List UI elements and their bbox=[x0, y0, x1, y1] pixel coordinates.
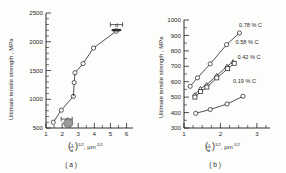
svg-text:(1 )1/2, µm-1/2: (1 )1/2, µm-1/2 bbox=[68, 141, 104, 151]
chart-b-point bbox=[208, 62, 212, 66]
chart-b-x-ticks bbox=[184, 123, 266, 128]
chart-b-point bbox=[198, 90, 202, 94]
chart-b-series-0-19: 0.19 % C bbox=[194, 78, 256, 116]
chart-b-label-0-78: 0.78 % C bbox=[239, 22, 262, 28]
chart-a-errbar-label-upper: d bbox=[115, 22, 118, 28]
chart-a-ytick-0: 500 bbox=[33, 124, 44, 131]
chart-a-ytick-4: 2500 bbox=[29, 9, 43, 16]
chart-b-label-0-42: 0.42 % C bbox=[238, 54, 261, 60]
chart-a-point bbox=[59, 108, 63, 112]
chart-b-y-axis-title: Ultimate tensile strength , MPa bbox=[158, 36, 164, 118]
chart-b-point bbox=[225, 102, 229, 106]
chart-a-point bbox=[72, 80, 76, 84]
chart-b-label-0-19: 0.19 % C bbox=[233, 78, 256, 84]
chart-a-series-lower bbox=[51, 94, 75, 124]
chart-a-x-ticks bbox=[46, 123, 127, 128]
chart-a-series-upper bbox=[72, 29, 118, 96]
chart-b-ytick-6: 900 bbox=[171, 32, 182, 39]
chart-a-point bbox=[51, 120, 55, 124]
chart-b-label-0-58: 0.58 % C bbox=[236, 39, 259, 45]
chart-b-x-tick-labels: 1 2 3 bbox=[182, 130, 259, 137]
chart-b-point bbox=[195, 76, 199, 80]
chart-panel-b: Ultimate tensile strength , MPa bbox=[143, 0, 286, 173]
svg-text:(1 )1/2, µm-1/2: (1 )1/2, µm-1/2 bbox=[205, 141, 241, 151]
chart-b-ytick-0: 300 bbox=[171, 124, 182, 131]
chart-a-caption: ( a ) bbox=[65, 161, 77, 169]
chart-b-point bbox=[232, 61, 236, 65]
chart-b-xtick-2: 3 bbox=[255, 130, 259, 137]
chart-b-point bbox=[226, 67, 230, 71]
chart-a-xtick-4: 5 bbox=[109, 130, 113, 137]
chart-b-ytick-1: 400 bbox=[171, 109, 182, 116]
chart-a-annotation-error-bar-upper: d bbox=[110, 22, 122, 28]
chart-a-xtick-5: 6 bbox=[125, 130, 129, 137]
chart-a-xtick-1: 2 bbox=[60, 130, 64, 137]
chart-a-ytick-3: 2000 bbox=[29, 38, 43, 45]
chart-a-y-axis-title: Ultimate tensile strength , MPa bbox=[8, 38, 14, 120]
chart-b-svg: Ultimate tensile strength , MPa bbox=[143, 0, 286, 173]
chart-a-ytick-2: 1500 bbox=[29, 67, 43, 74]
chart-b-point bbox=[193, 95, 197, 99]
chart-b-point bbox=[188, 84, 192, 88]
chart-a-xtick-0: 1 bbox=[44, 130, 48, 137]
chart-a-xlabel-units: , µm bbox=[84, 144, 96, 150]
chart-b-point bbox=[225, 43, 229, 47]
chart-panel-a: Ultimate tensile strength , MPa bbox=[0, 0, 143, 173]
chart-a-x-axis-title: (1 )1/2, µm-1/2 d bbox=[68, 141, 104, 153]
chart-b-ytick-7: 1000 bbox=[167, 16, 181, 23]
chart-b-ytick-4: 700 bbox=[171, 62, 182, 69]
chart-a-xlabel-unitexp: -1/2 bbox=[96, 142, 104, 147]
chart-a-y-tick-labels: 500 1000 1500 2000 2500 bbox=[29, 9, 43, 131]
chart-a-point bbox=[81, 61, 85, 65]
chart-a-xtick-2: 3 bbox=[76, 130, 80, 137]
chart-b-ytick-5: 800 bbox=[171, 47, 182, 54]
chart-a-y-ticks bbox=[46, 13, 51, 128]
figure-root: Ultimate tensile strength , MPa bbox=[0, 0, 286, 173]
chart-b-xlabel-units: , µm bbox=[221, 144, 233, 150]
chart-a-x-tick-labels: 1 2 3 4 5 6 bbox=[44, 130, 129, 137]
chart-b-point bbox=[208, 107, 212, 111]
chart-a-svg: Ultimate tensile strength , MPa bbox=[0, 0, 143, 173]
chart-b-x-axis-title: (1 )1/2, µm-1/2 d bbox=[205, 141, 241, 153]
chart-b-y-tick-labels: 300 400 500 600 700 800 900 1000 bbox=[167, 16, 181, 131]
chart-b-point bbox=[215, 76, 219, 80]
chart-b-ytick-3: 600 bbox=[171, 78, 182, 85]
chart-b-caption: ( b ) bbox=[209, 161, 221, 169]
chart-b-point bbox=[241, 94, 245, 98]
chart-a-dark-bar bbox=[111, 28, 121, 31]
chart-a-point bbox=[91, 46, 95, 50]
chart-b-xlabel-unitexp: -1/2 bbox=[233, 142, 241, 147]
chart-a-xtick-3: 4 bbox=[93, 130, 97, 137]
chart-b-ytick-2: 500 bbox=[171, 93, 182, 100]
chart-b-point bbox=[205, 85, 209, 89]
chart-a-ytick-1: 1000 bbox=[29, 95, 43, 102]
chart-b-point bbox=[194, 111, 198, 115]
chart-a-shaded-blob bbox=[64, 119, 73, 128]
chart-b-xtick-0: 1 bbox=[182, 130, 186, 137]
chart-b-xtick-1: 2 bbox=[219, 130, 223, 137]
chart-a-point bbox=[73, 71, 77, 75]
chart-b-y-ticks bbox=[184, 20, 189, 128]
chart-b-point bbox=[237, 31, 241, 35]
